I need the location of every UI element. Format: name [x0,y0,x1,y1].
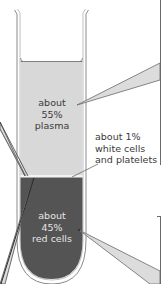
buffy-label-line-3: and platelets [95,154,161,166]
red-label-line-1: about [22,210,82,222]
plasma-label-line-1: about [22,97,82,109]
buffy-coat-label: about 1% white cells and platelets [95,131,161,166]
plasma-callout-pointer [77,63,160,105]
red-label-line-3: red cells [22,233,82,245]
plasma-label-line-2: 55% [22,109,82,121]
buffy-label-line-2: white cells [95,143,161,155]
plasma-label: about 55% plasma [22,97,82,132]
meniscus-curve-right [80,58,83,62]
red-label-line-2: 45% [22,222,82,234]
red-cells-label: about 45% red cells [22,210,82,245]
meniscus-curve-left [21,58,24,62]
plasma-label-line-3: plasma [22,120,82,132]
red-cells-callout-pointer [79,230,160,284]
buffy-label-line-1: about 1% [95,131,161,143]
